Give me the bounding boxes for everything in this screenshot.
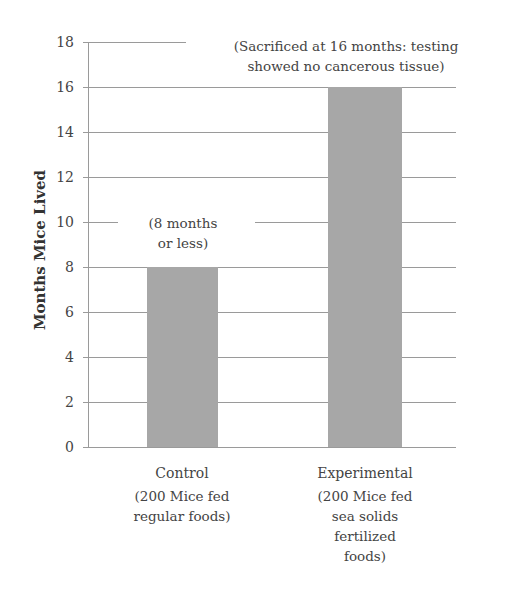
y-tick-16: 16 bbox=[44, 79, 74, 95]
category-label-control: Control (200 Mice fed regular foods) bbox=[112, 462, 252, 526]
y-tick-10: 10 bbox=[44, 214, 74, 230]
bar-control bbox=[147, 267, 218, 447]
y-axis-line bbox=[88, 42, 89, 448]
annotation-control: (8 months or less) bbox=[124, 213, 242, 253]
y-tick-2: 2 bbox=[44, 394, 74, 410]
y-tick-0: 0 bbox=[44, 439, 74, 455]
y-tick-12: 12 bbox=[44, 169, 74, 185]
annotation-experimental: (Sacrificed at 16 months: testing showed… bbox=[196, 36, 496, 76]
category-label-experimental: Experimental (200 Mice fed sea solids fe… bbox=[295, 462, 435, 566]
y-tick-8: 8 bbox=[44, 259, 74, 275]
x-axis-line bbox=[83, 447, 456, 448]
y-tick-4: 4 bbox=[44, 349, 74, 365]
y-tick-14: 14 bbox=[44, 124, 74, 140]
bar-chart: Months Mice Lived 18 16 14 12 10 8 6 4 2… bbox=[0, 0, 510, 605]
gridline-18 bbox=[83, 42, 186, 43]
gridline-10a bbox=[83, 222, 118, 223]
y-tick-6: 6 bbox=[44, 304, 74, 320]
bar-experimental bbox=[328, 87, 402, 447]
y-tick-18: 18 bbox=[44, 34, 74, 50]
